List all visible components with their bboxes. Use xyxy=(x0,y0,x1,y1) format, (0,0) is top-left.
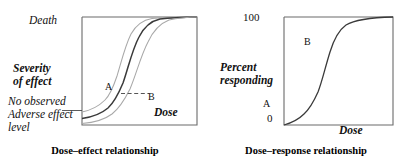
x-axis-label-dose: Dose xyxy=(339,124,363,137)
y-axis-label-percent-responding: Percentresponding xyxy=(220,61,273,87)
y-axis-top-tick-label-death: Death xyxy=(29,14,57,27)
panel-caption-dose-effect: Dose–effect relationship xyxy=(28,145,182,156)
noael-line-2: Adverse effect xyxy=(8,108,73,120)
plot-axes xyxy=(82,17,197,125)
y-axis-bottom-tick-label-noael: No observedAdverse effectlevel xyxy=(8,95,73,134)
y-axis-bottom-tick-label-0: 0 xyxy=(267,112,273,124)
curve-central xyxy=(82,17,197,119)
x-axis-label-dose: Dose xyxy=(154,106,178,119)
dose-response-figure: Death Severityof effect No observedAdver… xyxy=(0,0,407,167)
curve-label-a: A xyxy=(263,98,270,109)
panel-dose-response: 100 0 Percentresponding Dose A B Dose–re… xyxy=(205,0,407,167)
panel-caption-dose-response: Dose–response relationship xyxy=(230,145,382,156)
curve-response xyxy=(284,17,393,125)
y-axis-label-line-2: of effect xyxy=(13,75,51,87)
percent-line-2: responding xyxy=(220,74,273,86)
curve-label-b: B xyxy=(148,91,155,102)
curve-right-envelope xyxy=(82,17,197,124)
y-axis-top-tick-label-100: 100 xyxy=(243,11,260,23)
curve-label-b: B xyxy=(304,36,311,47)
percent-line-1: Percent xyxy=(220,61,256,73)
panel-dose-effect: Death Severityof effect No observedAdver… xyxy=(0,0,210,167)
y-axis-label-line-1: Severity xyxy=(13,62,51,74)
curve-label-a: A xyxy=(105,81,112,92)
noael-line-3: level xyxy=(8,121,30,133)
curve-left-envelope xyxy=(82,17,197,112)
y-axis-label-severity-of-effect: Severityof effect xyxy=(13,62,51,88)
noael-line-1: No observed xyxy=(8,95,66,107)
